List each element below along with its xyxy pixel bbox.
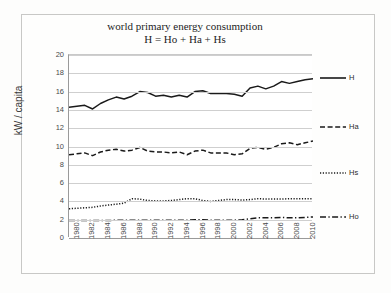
figure: world primary energy consumption H = Ho …: [0, 0, 391, 293]
legend-swatch-h-icon: [320, 74, 346, 82]
legend-label: Ha: [349, 123, 359, 131]
x-tick-label: 1994: [182, 222, 191, 239]
gridline: [69, 201, 312, 202]
legend-label: H: [349, 74, 354, 82]
series-line-h: [69, 79, 313, 109]
legend-swatch-ha-icon: [320, 123, 346, 131]
x-tick-label: 1984: [103, 222, 112, 239]
gridline: [69, 110, 312, 111]
x-tick-label: 1982: [87, 222, 96, 239]
x-tick-label: 1998: [213, 222, 222, 239]
x-tick-label: 2006: [276, 222, 285, 239]
y-tick-label: 14: [42, 104, 64, 113]
y-tick-label: 18: [42, 68, 64, 77]
gridline: [69, 183, 312, 184]
x-tick-label: 2000: [229, 222, 238, 239]
gridline: [69, 92, 312, 93]
gridline: [69, 73, 312, 74]
gridline: [69, 165, 312, 166]
x-tick-label: 2002: [245, 222, 254, 239]
y-tick-label: 16: [42, 86, 64, 95]
y-tick-label: 2: [42, 214, 64, 223]
legend-swatch-hs-icon: [320, 169, 346, 177]
x-tick-label: 1988: [135, 222, 144, 239]
chart-title-main: world primary energy consumption: [107, 20, 262, 32]
series-line-ha: [69, 141, 313, 156]
y-tick-label: 8: [42, 159, 64, 168]
gridline: [69, 147, 312, 148]
y-axis-label: kW / capita: [13, 71, 24, 151]
y-tick-label: 20: [42, 50, 64, 59]
x-tick-label: 2008: [292, 222, 301, 239]
x-tick-label: 1986: [119, 222, 128, 239]
y-tick-label: 4: [42, 196, 64, 205]
legend-entry-ho[interactable]: Ho: [320, 213, 359, 221]
y-tick-label: 12: [42, 123, 64, 132]
gridline: [69, 55, 312, 56]
x-axis-ticklabels: 1980198219841986198819901992199419961998…: [68, 239, 312, 279]
y-tick-label: 0: [42, 233, 64, 242]
y-tick-label: 6: [42, 178, 64, 187]
legend-label: Ho: [349, 213, 359, 221]
chart-legend: HHaHsHo: [320, 54, 376, 237]
chart-title: world primary energy consumption H = Ho …: [40, 20, 330, 46]
y-axis-ticklabels: 20181614121086420: [42, 54, 64, 237]
x-tick-label: 1990: [150, 222, 159, 239]
chart-title-subtitle: H = Ho + Ha + Hs: [40, 33, 330, 46]
y-tick-label: 10: [42, 141, 64, 150]
x-tick-label: 2010: [308, 222, 317, 239]
x-tick-label: 2004: [261, 222, 270, 239]
x-tick-label: 1992: [166, 222, 175, 239]
legend-entry-ha[interactable]: Ha: [320, 123, 359, 131]
x-tick-label: 1996: [198, 222, 207, 239]
gridline: [69, 220, 312, 221]
legend-entry-hs[interactable]: Hs: [320, 169, 358, 177]
legend-swatch-ho-icon: [320, 213, 346, 221]
x-tick-label: 1980: [72, 222, 81, 239]
legend-label: Hs: [349, 169, 358, 177]
plot-area: [68, 54, 312, 237]
series-line-hs: [69, 199, 313, 209]
legend-entry-h[interactable]: H: [320, 74, 354, 82]
gridline: [69, 128, 312, 129]
